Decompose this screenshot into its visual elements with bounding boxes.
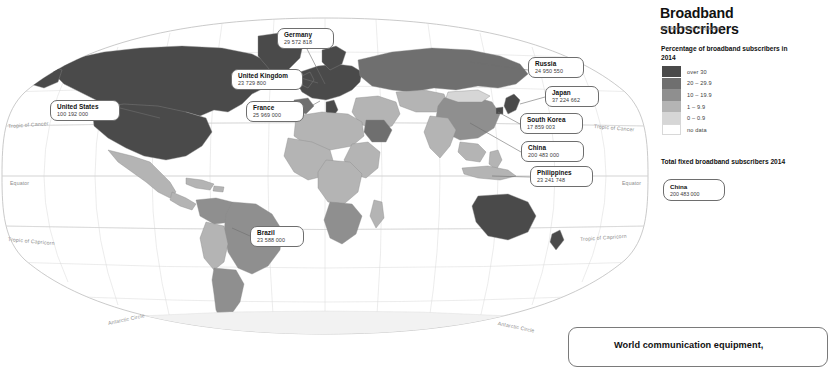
- bottom-section-title: World communication equipment,: [614, 340, 763, 350]
- callout-country: Germany: [284, 31, 327, 39]
- callout-philippines[interactable]: Philippines 23 241 748: [530, 166, 593, 187]
- legend-title: Percentage of broadband subscribers in 2…: [661, 45, 789, 63]
- bottom-section-box[interactable]: World communication equipment,: [568, 327, 828, 367]
- callout-country: South Korea: [527, 116, 576, 124]
- legend-label: over 30: [687, 69, 707, 75]
- callout-value: 29 572 818: [284, 39, 327, 45]
- callout-value: 23 241 748: [537, 177, 586, 183]
- callout-value: 200 483 000: [528, 152, 577, 158]
- legend-label: 10 – 19.9: [687, 92, 712, 98]
- callout-russia[interactable]: Russia 24 950 550: [528, 57, 584, 78]
- legend-swatch-over-30: [662, 66, 681, 77]
- world-map-panel[interactable]: Tropic of Cancer Equator Tropic of Capri…: [0, 0, 650, 351]
- callout-brazil[interactable]: Brazil 23 588 000: [250, 226, 304, 247]
- legend-label: 0 – 0.9: [687, 115, 705, 121]
- callout-france[interactable]: France 25 969 000: [246, 101, 304, 122]
- island-hispaniola: [213, 186, 224, 192]
- callout-country: Philippines: [537, 169, 586, 177]
- callout-country: Japan: [552, 89, 592, 97]
- callout-china[interactable]: China 200 483 000: [521, 141, 584, 162]
- legend-swatch-0-0-9: [662, 112, 681, 123]
- legend-item[interactable]: no data: [662, 124, 792, 136]
- callout-country: United States: [57, 103, 113, 111]
- legend-label: no data: [687, 127, 707, 133]
- legend-label: 1 – 9.9: [687, 104, 705, 110]
- total-country: China: [670, 183, 724, 190]
- callout-germany[interactable]: Germany 29 572 818: [277, 28, 334, 49]
- callout-united-states[interactable]: United States 100 192 000: [50, 100, 120, 121]
- callout-country: France: [253, 104, 297, 112]
- callout-united-kingdom[interactable]: United Kingdom 23 729 800: [231, 69, 303, 90]
- legend-item[interactable]: 10 – 19.9: [662, 89, 792, 101]
- lat-label: Equator: [10, 180, 29, 186]
- total-subscribers-china-box[interactable]: China 200 483 000: [663, 179, 725, 201]
- callout-value: 23 588 000: [257, 237, 297, 243]
- total-subscribers-title: Total fixed broadband subscribers 2014: [661, 158, 791, 167]
- total-value: 200 483 000: [670, 191, 724, 197]
- legend-item[interactable]: 20 – 29.9: [662, 78, 792, 90]
- legend-swatch-1-9: [662, 101, 681, 112]
- country-south-korea: [496, 107, 503, 114]
- callout-value: 17 859 003: [527, 124, 576, 130]
- sidebar-panel: Broadband subscribers Winkel Tripel Proj…: [650, 0, 795, 351]
- legend[interactable]: over 30 20 – 29.9 10 – 19.9 1 – 9.9 0 – …: [662, 66, 792, 136]
- callout-value: 100 192 000: [57, 111, 113, 117]
- legend-item[interactable]: 0 – 0.9: [662, 112, 792, 124]
- legend-swatch-no-data: [662, 124, 681, 135]
- legend-swatch-10-19: [662, 89, 681, 100]
- legend-item[interactable]: over 30: [662, 66, 792, 78]
- projection-subtitle: Winkel Tripel Projection: [661, 25, 723, 31]
- callout-country: Brazil: [257, 229, 297, 237]
- callout-value: 37 224 662: [552, 97, 592, 103]
- callout-south-korea[interactable]: South Korea 17 859 003: [520, 113, 583, 134]
- callout-value: 23 729 800: [238, 80, 296, 86]
- legend-swatch-20-29: [662, 78, 681, 89]
- callout-country: China: [528, 144, 577, 152]
- legend-item[interactable]: 1 – 9.9: [662, 101, 792, 113]
- callout-value: 25 969 000: [253, 112, 297, 118]
- callout-country: United Kingdom: [238, 72, 296, 80]
- lat-label: Equator: [622, 180, 641, 186]
- callout-japan[interactable]: Japan 37 224 662: [545, 86, 599, 107]
- callout-country: Russia: [535, 60, 577, 68]
- legend-label: 20 – 29.9: [687, 80, 712, 86]
- callout-value: 24 950 550: [535, 68, 577, 74]
- page-title: Broadband subscribers: [660, 5, 800, 37]
